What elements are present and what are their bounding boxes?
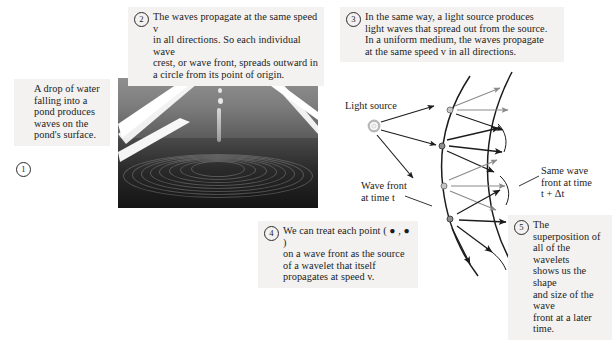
wavelet-source-1-arrows (455, 88, 508, 130)
callout-1: 1 A drop of water falling into a pond pr… (14, 79, 110, 146)
wavelet-source-2-arrows (447, 128, 502, 172)
callout-4-text: We can treat each point ( ● , ● ) on a w… (283, 225, 412, 283)
diagram-leader-lines (405, 176, 539, 206)
callout-1-number: 1 (16, 162, 31, 177)
callout-2: 2 The waves propagate at the same speed … (128, 7, 324, 86)
callout-5-text: The superposition of all of the wavelets… (533, 219, 606, 335)
light-source-point (369, 121, 379, 131)
wavelet-source-point (447, 107, 453, 113)
light-source-label: Light source (345, 100, 397, 112)
callout-3: 3 In the same way, a light source produc… (340, 7, 564, 62)
callout-5: 5 The superposition of all of the wavele… (508, 215, 612, 340)
same-wave-front-label: Same wave front at time t + Δt (541, 165, 592, 200)
wavelet-source-point (439, 143, 445, 149)
wavelet-source-4-arrows (452, 190, 506, 264)
callout-4-number: 4 (264, 226, 279, 241)
callout-3-text: In the same way, a light source produces… (365, 11, 547, 57)
callout-2-number: 2 (134, 12, 149, 27)
wavelet-source-point (441, 183, 447, 189)
light-source-rays (377, 106, 436, 178)
callout-5-number: 5 (514, 220, 529, 235)
wave-front-at-time-t-label: Wave front at time t (361, 180, 407, 203)
callout-4: 4 We can treat each point ( ● , ● ) on a… (258, 221, 418, 288)
wavelet-source-point (447, 216, 453, 222)
callout-2-text: The waves propagate at the same speed v … (153, 11, 318, 81)
callout-3-number: 3 (346, 12, 361, 27)
callout-1-text: A drop of water falling into a pond prod… (34, 83, 100, 141)
